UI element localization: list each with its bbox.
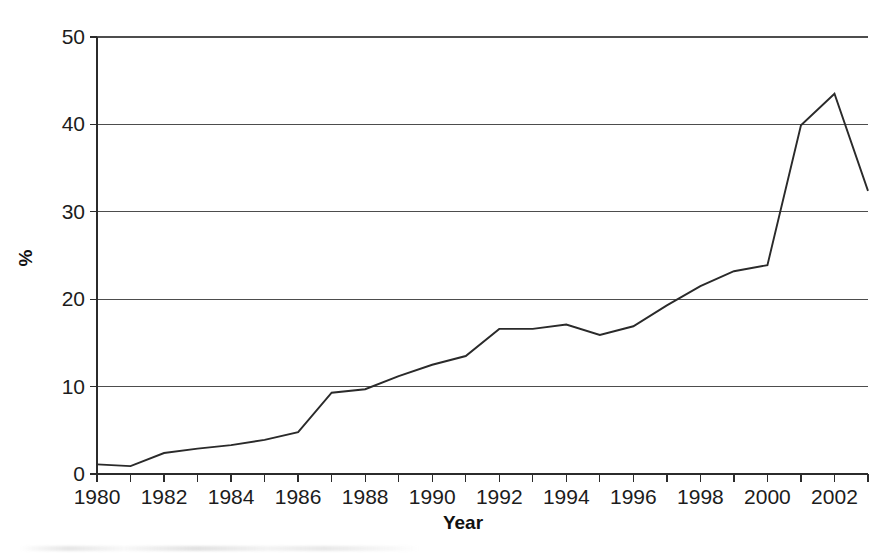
x-tick-label-2000: 2000 [744,485,791,508]
x-tick-label-1990: 1990 [409,485,456,508]
x-axis-title: Year [443,512,484,533]
y-tick-label-0: 0 [73,462,85,485]
x-tick-label-1994: 1994 [543,485,590,508]
y-tick-label-50: 50 [62,25,85,48]
x-tick-label-1996: 1996 [610,485,657,508]
x-tick-label-1992: 1992 [476,485,523,508]
line-chart: 01020304050 1980198219841986198819901992… [0,0,887,555]
chart-background [0,0,887,555]
y-tick-label-30: 30 [62,200,85,223]
x-tick-label-1982: 1982 [141,485,188,508]
chart-canvas: 01020304050 1980198219841986198819901992… [0,0,887,555]
x-tick-label-1980: 1980 [74,485,121,508]
y-tick-label-20: 20 [62,287,85,310]
x-tick-label-1984: 1984 [208,485,255,508]
x-tick-label-1998: 1998 [677,485,724,508]
y-tick-label-40: 40 [62,112,85,135]
y-tick-label-10: 10 [62,375,85,398]
x-tick-label-2002: 2002 [811,485,858,508]
y-axis-title: % [15,249,36,266]
x-tick-label-1988: 1988 [342,485,389,508]
x-tick-label-1986: 1986 [275,485,322,508]
